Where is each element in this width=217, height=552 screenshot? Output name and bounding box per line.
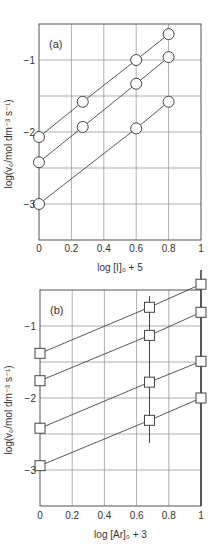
data-point-circle (131, 55, 142, 66)
x-tick-label: 0.2 (64, 243, 78, 254)
chart-panel-1: 00.20.40.60.81−1−2−3log [Ar]₀ + 3log(v₀/… (3, 270, 206, 540)
x-tick-label: 0.6 (130, 510, 144, 521)
data-point-square (35, 348, 45, 358)
y-axis-label: log(v₀/mol dm⁻³ s⁻¹) (3, 365, 14, 454)
x-tick-label: 0.2 (65, 510, 79, 521)
x-axis-label: log [I]₀ + 5 (97, 262, 143, 273)
y-axis-label: log(v₀/mol dm⁻³ s⁻¹) (3, 99, 14, 188)
x-tick-label: 0.8 (162, 243, 176, 254)
data-point-square (144, 302, 154, 312)
data-point-circle (77, 96, 88, 107)
data-point-square (144, 330, 154, 340)
data-point-square (144, 415, 154, 425)
series-line (40, 361, 201, 428)
data-point-square (196, 279, 206, 289)
data-point-square (35, 423, 45, 433)
series-line (40, 284, 201, 353)
panel-label: (a) (49, 38, 62, 50)
data-point-square (196, 307, 206, 317)
data-point-circle (34, 132, 45, 143)
x-tick-label: 0.4 (97, 510, 111, 521)
y-tick-label: −1 (25, 321, 37, 332)
x-tick-label: 0.4 (97, 243, 111, 254)
x-axis-label: log [Ar]₀ + 3 (94, 529, 147, 540)
data-point-square (144, 377, 154, 387)
series-line (40, 312, 201, 380)
y-tick-label: −3 (24, 199, 36, 210)
y-tick-label: −2 (25, 393, 37, 404)
data-point-circle (34, 157, 45, 168)
data-point-circle (77, 121, 88, 132)
data-point-circle (163, 29, 174, 40)
y-tick-label: −3 (25, 465, 37, 476)
data-point-square (35, 376, 45, 386)
data-point-square (35, 461, 45, 471)
x-tick-label: 1 (198, 243, 204, 254)
data-point-circle (131, 78, 142, 89)
data-point-circle (163, 52, 174, 63)
panel-label: (b) (50, 304, 63, 316)
y-tick-label: −2 (24, 127, 36, 138)
y-tick-label: −1 (24, 55, 36, 66)
chart-canvas: 00.20.40.60.81−1−2−3log [I]₀ + 5log(v₀/m… (0, 0, 217, 552)
x-tick-label: 0.8 (162, 510, 176, 521)
x-tick-label: 1 (198, 510, 204, 521)
data-point-circle (34, 199, 45, 210)
data-point-circle (131, 123, 142, 134)
x-tick-label: 0.6 (129, 243, 143, 254)
data-point-circle (163, 96, 174, 107)
data-point-square (196, 356, 206, 366)
chart-panel-0: 00.20.40.60.81−1−2−3log [I]₀ + 5log(v₀/m… (3, 24, 204, 273)
data-point-square (196, 393, 206, 403)
series-line (40, 398, 201, 466)
x-tick-label: 0 (37, 510, 43, 521)
x-tick-label: 0 (36, 243, 42, 254)
